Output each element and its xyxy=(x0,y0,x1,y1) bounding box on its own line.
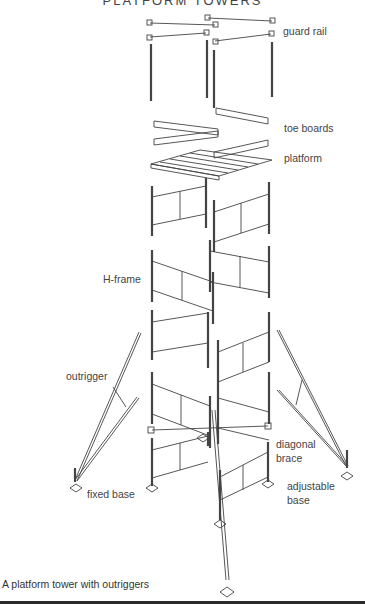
outriggers xyxy=(70,330,353,492)
label-h-frame: H-frame xyxy=(103,273,141,285)
label-guard-rail: guard rail xyxy=(283,25,327,37)
toe-boards-group xyxy=(154,108,268,158)
h-frames xyxy=(152,178,269,520)
platform-deck xyxy=(151,150,272,180)
label-diagonal-brace-line1: diagonal xyxy=(276,438,316,450)
label-toe-boards: toe boards xyxy=(284,122,334,134)
label-platform: platform xyxy=(284,152,322,164)
label-adjustable-base-line2: base xyxy=(287,494,310,506)
figure-caption: A platform tower with outriggers xyxy=(2,578,149,590)
platform-tower-illustration xyxy=(0,0,365,604)
label-fixed-base: fixed base xyxy=(87,488,135,500)
guard-rail-group xyxy=(147,15,275,108)
label-diagonal-brace-line2: brace xyxy=(276,452,302,464)
label-outrigger: outrigger xyxy=(66,370,107,382)
label-adjustable-base-line1: adjustable xyxy=(287,480,335,492)
